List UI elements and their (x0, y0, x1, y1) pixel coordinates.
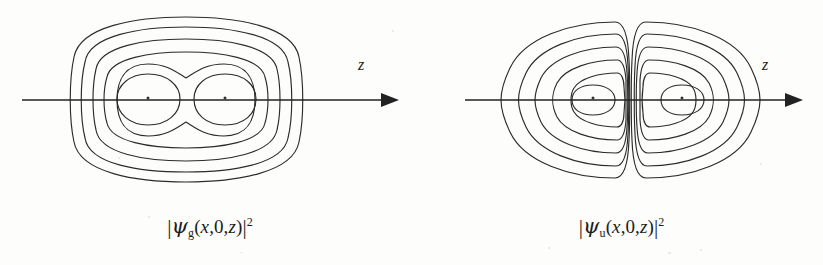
nucleus-marker-right (224, 97, 227, 100)
caption-arg-x: x (201, 216, 210, 237)
caption-psi: ψ (583, 214, 600, 238)
caption-arg-x: x (612, 216, 621, 237)
gerade-nuclei (147, 97, 227, 100)
panel-gerade: z |ψg(x,0,z)|2 (0, 0, 420, 265)
nucleus-marker-left (592, 97, 595, 100)
caption-ungerade: |ψu(x,0,z)|2 (420, 214, 823, 241)
caption-psi: ψ (171, 214, 188, 238)
caption-arg-zero: 0 (626, 216, 636, 237)
z-axis-arrowhead (381, 93, 399, 107)
nucleus-marker-right (681, 97, 684, 100)
caption-arg-z: z (228, 216, 236, 237)
z-axis-label: z (358, 56, 364, 74)
gerade-z-axis (22, 93, 399, 107)
panel-ungerade: z |ψu(x,0,z)|2 (420, 0, 823, 265)
z-axis-label: z (762, 56, 768, 74)
caption-exponent: 2 (247, 215, 253, 229)
caption-gerade: |ψg(x,0,z)|2 (0, 214, 420, 241)
caption-arg-zero: 0 (214, 216, 224, 237)
nucleus-marker-left (147, 97, 150, 100)
ungerade-nuclei (592, 97, 684, 100)
z-axis-arrowhead (785, 93, 803, 107)
caption-exponent: 2 (658, 215, 664, 229)
figure-root: z |ψg(x,0,z)|2 (0, 0, 823, 265)
